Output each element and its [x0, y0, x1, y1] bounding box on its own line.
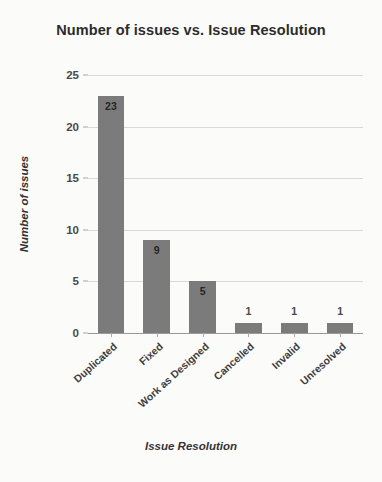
x-tick-mark	[111, 333, 112, 337]
x-tick-mark	[157, 333, 158, 337]
bar-group: 1	[327, 75, 354, 333]
bar-value-label: 1	[327, 305, 354, 317]
bar-value-label: 23	[98, 100, 125, 112]
y-tick-label: 20	[66, 121, 79, 133]
x-category-label: Duplicated	[71, 340, 119, 385]
x-tick-mark	[340, 333, 341, 337]
x-tick-mark	[203, 333, 204, 337]
y-tick-label: 25	[66, 69, 79, 81]
bar-value-label: 1	[235, 305, 262, 317]
x-tick-mark	[294, 333, 295, 337]
plot-area: 0510152025 2395111 DuplicatedFixedWork a…	[88, 75, 363, 333]
bar: 9	[143, 240, 170, 333]
bar-value-label: 5	[189, 285, 216, 297]
y-tick-label: 15	[66, 172, 79, 184]
x-axis-title: Issue Resolution	[0, 440, 382, 452]
x-tick-mark	[248, 333, 249, 337]
y-tick-label: 0	[73, 327, 79, 339]
bars: 2395111	[88, 75, 363, 333]
y-tick-label: 10	[66, 224, 79, 236]
x-category-label: Fixed	[136, 340, 164, 367]
x-category-label: Unresolved	[298, 340, 349, 387]
axis-baseline	[88, 333, 363, 334]
bar-group: 1	[281, 75, 308, 333]
y-axis-title: Number of issues	[18, 156, 30, 253]
bar-value-label: 9	[143, 244, 170, 256]
bar: 5	[189, 281, 216, 333]
bar-group: 1	[235, 75, 262, 333]
bar-chart: Number of issues vs. Issue Resolution Nu…	[0, 0, 382, 482]
bar: 23	[98, 96, 125, 333]
bar-group: 5	[189, 75, 216, 333]
bar: 1	[281, 323, 308, 333]
bar-group: 23	[98, 75, 125, 333]
bar-group: 9	[143, 75, 170, 333]
chart-title: Number of issues vs. Issue Resolution	[0, 22, 382, 38]
y-tick-label: 5	[73, 275, 79, 287]
bar: 1	[327, 323, 354, 333]
bar-value-label: 1	[281, 305, 308, 317]
x-category-label: Invalid	[270, 340, 303, 371]
x-category-label: Cancelled	[212, 340, 257, 382]
bar: 1	[235, 323, 262, 333]
